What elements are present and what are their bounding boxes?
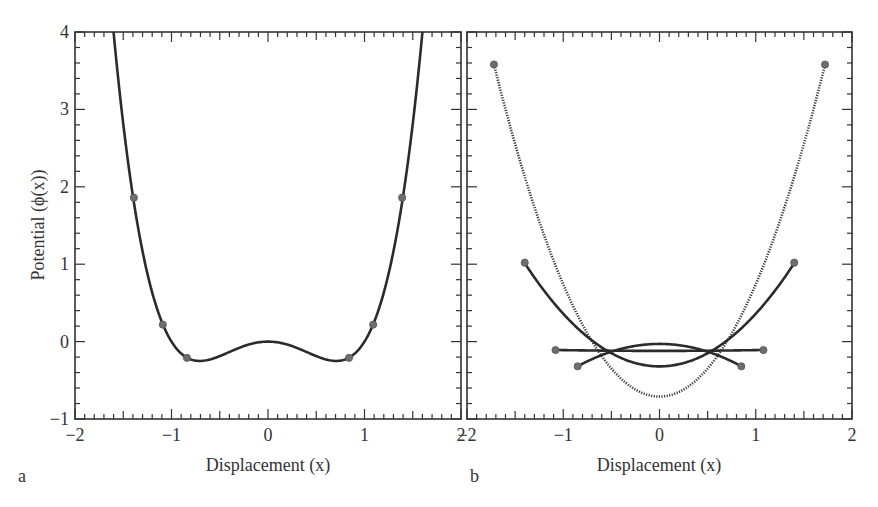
panel-b-plot: −2−1012 [457, 32, 856, 445]
x-tick-label: −2 [457, 425, 476, 445]
x-tick-label: 2 [848, 425, 857, 445]
panel-a-plot: −2−1012−101234 [50, 22, 466, 445]
plot-frame [467, 32, 852, 419]
data-point-marker [399, 194, 406, 201]
x-axis-label-b: Displacement (x) [597, 455, 721, 476]
x-axis-label-a: Displacement (x) [206, 455, 330, 476]
y-tick-label: −1 [50, 409, 69, 429]
y-tick-label: 4 [60, 22, 69, 42]
plot-frame [75, 32, 461, 419]
y-tick-label: 0 [60, 332, 69, 352]
data-point-marker [370, 321, 377, 328]
x-tick-label: 1 [360, 425, 369, 445]
data-point-marker [521, 259, 528, 266]
data-curve [556, 350, 764, 351]
data-point-marker [159, 321, 166, 328]
y-tick-label: 1 [60, 254, 69, 274]
data-point-marker [183, 354, 190, 361]
data-curve [114, 33, 423, 361]
panel-label-a: a [18, 466, 26, 486]
x-tick-label: 0 [655, 425, 664, 445]
data-point-marker [345, 354, 352, 361]
figure: −2−1012−101234 −2−1012 Potential (ϕ(x)) … [0, 0, 878, 507]
data-point-marker [130, 194, 137, 201]
data-point-marker [738, 363, 745, 370]
x-tick-label: 0 [264, 425, 273, 445]
data-point-marker [552, 347, 559, 354]
data-curve [494, 65, 825, 397]
data-point-marker [490, 61, 497, 68]
y-axis-label: Potential (ϕ(x)) [28, 170, 49, 281]
y-tick-label: 2 [60, 177, 69, 197]
data-point-marker [791, 259, 798, 266]
x-tick-label: 1 [751, 425, 760, 445]
y-tick-label: 3 [60, 99, 69, 119]
data-point-marker [574, 363, 581, 370]
data-point-marker [821, 61, 828, 68]
panel-label-b: b [470, 466, 479, 486]
x-tick-label: −1 [554, 425, 573, 445]
data-point-marker [760, 347, 767, 354]
x-tick-label: −1 [162, 425, 181, 445]
